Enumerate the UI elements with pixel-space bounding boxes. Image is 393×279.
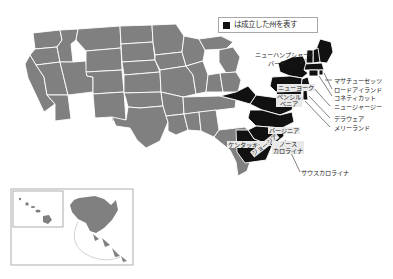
label-vermont: バーモント <box>268 60 298 67</box>
island-kauai <box>19 198 21 200</box>
label-maryland: メリーランド <box>334 124 370 131</box>
label-pennsylvania-line2: ベニア <box>280 100 298 107</box>
inset-box <box>11 189 133 265</box>
label-new-hampshire: ニューハンプシャー <box>255 51 309 58</box>
label-connecticut: コネティカット <box>334 94 376 101</box>
legend-swatch-icon <box>223 22 230 29</box>
state-south-dakota <box>121 42 155 62</box>
label-north-carolina-line2: カロライナ <box>273 147 303 154</box>
state-arizona <box>47 95 71 121</box>
label-pennsylvania: ペンシル ベニア <box>276 94 302 107</box>
state-north-dakota <box>120 25 153 44</box>
state-oklahoma <box>124 92 163 108</box>
alaska-aleutian-3 <box>112 248 120 257</box>
state-north-carolina <box>248 110 294 128</box>
label-massachusetts: マサチューセッツ <box>334 77 382 84</box>
state-ohio <box>220 72 241 92</box>
inset-hawaii-islands <box>19 198 52 224</box>
state-wyoming <box>86 48 122 72</box>
legend-label: は成立した州を表す <box>234 21 297 29</box>
inset-alaska <box>70 196 127 262</box>
state-new-mexico <box>93 92 126 121</box>
inset-hawaii-frame <box>13 191 63 227</box>
alaska-aleutian-2 <box>102 238 110 247</box>
state-delaware <box>303 90 308 100</box>
alaska-aleutian-1 <box>93 234 99 241</box>
state-connecticut <box>309 70 318 76</box>
mainland-states-gray <box>25 24 256 176</box>
state-rhode-island <box>319 70 323 75</box>
state-montana <box>76 26 121 51</box>
legend-box: は成立した州を表す <box>218 17 318 33</box>
map-page: は成立した州を表す ニューハンプシャー バーモント マサチューセッツ ロードアイ… <box>0 0 393 279</box>
label-new-york: ニューヨーク <box>277 84 315 91</box>
label-north-carolina: ノース カロライナ <box>272 141 304 154</box>
label-new-jersey: ニュージャージー <box>334 103 382 110</box>
state-alabama <box>199 110 219 137</box>
island-hawaii-big <box>43 215 52 224</box>
state-michigan-lower <box>219 47 240 73</box>
state-kansas <box>124 72 161 93</box>
label-south-carolina: サウスカロライナ <box>301 169 349 176</box>
label-rhode-island: ロードアイランド <box>334 86 382 93</box>
state-minnesota <box>152 24 184 55</box>
us-map-graphic <box>0 0 393 279</box>
island-oahu <box>25 202 28 205</box>
island-molokai <box>31 206 35 208</box>
state-alaska <box>70 196 118 233</box>
label-delaware: デラウェア <box>334 115 364 122</box>
island-maui <box>35 209 40 212</box>
state-massachusetts <box>304 63 324 70</box>
alaska-aleutian-4 <box>121 256 127 262</box>
